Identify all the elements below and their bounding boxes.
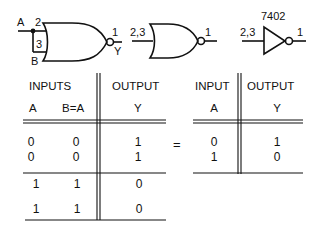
label-pin-out: 1 [297,26,303,38]
label-input-a: A [17,16,25,28]
table-left-lines [23,73,166,220]
cell-a: 1 [33,202,40,216]
header-input: INPUT [195,80,230,92]
cell-y: 1 [135,150,142,164]
label-part-number: 7402 [261,10,285,22]
label-pin-2: 2 [35,16,41,28]
col-a: A [210,102,218,114]
label-pins-in: 2,3 [130,26,145,38]
col-a: A [29,102,37,114]
cell-a: 0 [28,150,35,164]
cell-y: 0 [274,150,281,164]
junction-dot [31,29,34,32]
cell-y: 0 [136,177,143,191]
label-pin-3: 3 [36,38,42,50]
cell-b: 1 [74,177,81,191]
col-y: Y [273,102,281,114]
cell-y: 1 [274,135,281,149]
cell-b: 0 [73,150,80,164]
nor-gate-body [150,24,198,58]
header-inputs: INPUTS [29,80,72,92]
header-output: OUTPUT [247,80,294,92]
cell-a: 0 [28,135,35,149]
col-b-equals-a: B=A [62,102,84,114]
truth-table-left: INPUTS OUTPUT A B=A Y 0 0 1 0 0 1 1 1 0 … [23,73,166,220]
cell-y: 0 [136,202,143,216]
nor-gate-body [43,23,107,61]
cell-a: 0 [211,135,218,149]
label-input-b: B [31,55,38,67]
equals-sign: = [173,137,181,152]
label-pin-out: 1 [205,26,211,38]
cell-b: 0 [73,135,80,149]
truth-table-right: INPUT OUTPUT A Y 0 1 1 0 [193,73,303,174]
inversion-bubble [286,38,293,45]
col-y: Y [134,102,142,114]
nor-as-inverter-diagram: A 2 3 B 1 Y 2,3 1 7402 2,3 1 INPUTS OUTP… [0,0,317,231]
label-output-y: Y [114,45,122,57]
cell-b: 1 [74,202,81,216]
cell-a: 1 [211,150,218,164]
label-pins-in: 2,3 [240,26,255,38]
cell-y: 1 [135,135,142,149]
label-pin-1: 1 [112,26,118,38]
cell-a: 1 [33,177,40,191]
header-output: OUTPUT [112,80,159,92]
inverter-body [264,27,285,54]
